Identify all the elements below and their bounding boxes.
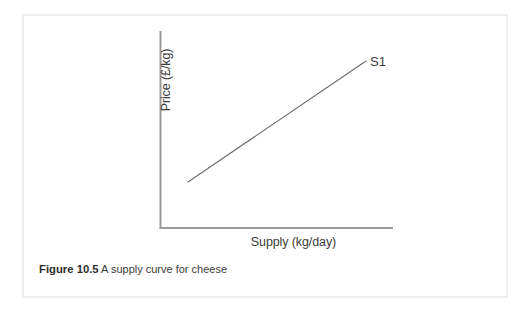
figure-caption: Figure 10.5 A supply curve for cheese: [39, 262, 227, 276]
figure-frame-border: [22, 14, 508, 298]
figure-caption-number: Figure 10.5: [39, 263, 99, 275]
y-axis-title: Price (£/kg): [156, 20, 176, 140]
figure-caption-text: A supply curve for cheese: [99, 263, 227, 275]
supply-curve-s1-label: S1: [370, 54, 386, 69]
figure-container: Price (£/kg) Supply (kg/day) S1 Figure 1…: [0, 0, 529, 319]
x-axis-title: Supply (kg/day): [186, 235, 401, 249]
